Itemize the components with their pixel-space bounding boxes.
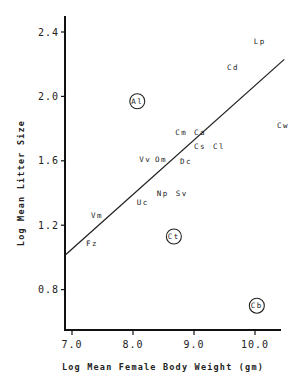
- data-point-cs: Cs: [194, 142, 206, 151]
- point-label: Fz: [86, 239, 98, 248]
- data-point-cm: Cm: [175, 128, 187, 137]
- scatter-chart: 0.81.21.62.02.4 7.08.09.010.0 LpCdAlCwCm…: [0, 0, 302, 381]
- point-label: Om: [155, 155, 167, 164]
- y-tick-label: 0.8: [38, 284, 59, 295]
- point-label: Cw: [277, 121, 289, 130]
- point-label: Ca: [194, 128, 206, 137]
- point-label: Lp: [254, 37, 266, 46]
- data-point-uc: Uc: [137, 198, 149, 207]
- point-label: Np: [157, 189, 169, 198]
- y-axis-title: Log Mean Litter Size: [16, 120, 26, 246]
- y-axis: 0.81.21.62.02.4: [38, 16, 65, 330]
- data-points: LpCdAlCwCmCaCsClVvOmDcNpSvUcVmFzCtCb: [86, 37, 289, 313]
- y-tick-label: 2.0: [38, 91, 59, 102]
- x-tick-label: 7.0: [61, 339, 82, 350]
- data-point-cl: Cl: [213, 142, 225, 151]
- data-point-fz: Fz: [86, 239, 98, 248]
- point-label: Cm: [175, 128, 187, 137]
- point-label: Sv: [176, 189, 188, 198]
- x-axis: 7.08.09.010.0: [61, 330, 281, 350]
- y-tick-label: 1.6: [38, 155, 59, 166]
- point-label: Vv: [139, 155, 151, 164]
- data-point-lp: Lp: [254, 37, 266, 46]
- point-label: Cs: [194, 142, 206, 151]
- x-tick-label: 8.0: [122, 339, 143, 350]
- point-label: Cl: [213, 142, 225, 151]
- data-point-cb: Cb: [249, 298, 264, 313]
- data-point-dc: Dc: [180, 157, 192, 166]
- data-point-om: Om: [155, 155, 167, 164]
- data-point-vv: Vv: [139, 155, 151, 164]
- point-label: Vm: [91, 211, 103, 220]
- y-tick-label: 2.4: [38, 27, 59, 38]
- point-label: Dc: [180, 157, 192, 166]
- point-label: Cb: [251, 301, 263, 310]
- data-point-sv: Sv: [176, 189, 188, 198]
- x-tick-label: 10.0: [241, 339, 269, 350]
- point-label: Al: [131, 97, 143, 106]
- regression-line: [65, 59, 284, 255]
- x-axis-title: Log Mean Female Body Weight (gm): [62, 362, 264, 372]
- data-point-cd: Cd: [227, 63, 239, 72]
- data-point-ca: Ca: [194, 128, 206, 137]
- point-label: Cd: [227, 63, 239, 72]
- data-point-cw: Cw: [277, 121, 289, 130]
- data-point-vm: Vm: [91, 211, 103, 220]
- data-point-al: Al: [130, 94, 145, 109]
- x-tick-label: 9.0: [183, 339, 204, 350]
- point-label: Uc: [137, 198, 149, 207]
- y-tick-label: 1.2: [38, 220, 59, 231]
- data-point-ct: Ct: [166, 229, 181, 244]
- data-point-np: Np: [157, 189, 169, 198]
- point-label: Ct: [168, 232, 180, 241]
